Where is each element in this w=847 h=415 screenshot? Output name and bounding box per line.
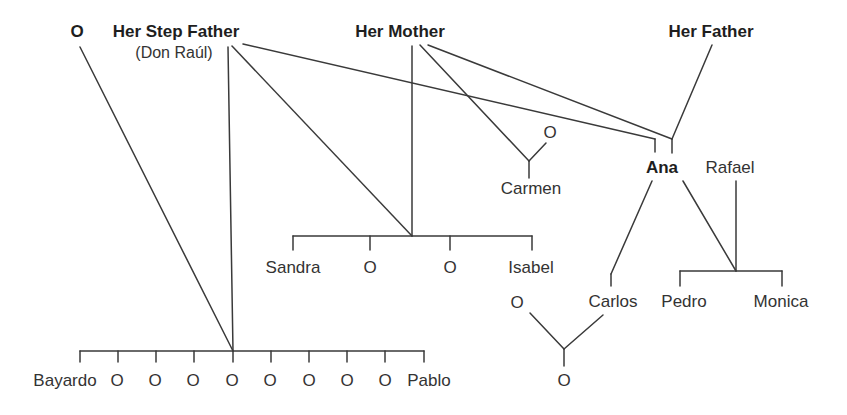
bottom-o3: O <box>186 372 199 389</box>
sandra-label: Sandra <box>266 259 321 276</box>
carlos-partner-o: O <box>510 294 523 311</box>
unknown-spouse-top: O <box>70 23 83 40</box>
bottom-o5: O <box>263 372 276 389</box>
middle-o2: O <box>443 259 456 276</box>
rafael-label: Rafael <box>705 159 754 176</box>
bottom-o2: O <box>148 372 161 389</box>
link-stepfather-to-middle-family <box>232 46 412 236</box>
step-father-name: (Don Raúl) <box>135 45 212 61</box>
carlos-label: Carlos <box>588 293 637 310</box>
bottom-o7: O <box>340 372 353 389</box>
family-tree-lines <box>0 0 847 415</box>
bottom-o6: O <box>302 372 315 389</box>
link-ana-to-carlos <box>611 181 652 274</box>
mothers-partner-o: O <box>543 124 556 141</box>
link-stepfather-to-bottom-family <box>228 47 233 351</box>
step-father-label: Her Step Father <box>113 23 240 40</box>
link-ana-to-pedro-monica <box>683 181 736 271</box>
bottom-o4: O <box>225 372 238 389</box>
bottom-o1: O <box>110 372 123 389</box>
bayardo-label: Bayardo <box>33 372 96 389</box>
pablo-label: Pablo <box>407 372 450 389</box>
carlos-child-o: O <box>557 372 570 389</box>
ana-label: Ana <box>646 159 678 176</box>
pedro-label: Pedro <box>661 293 706 310</box>
link-o-to-carmen <box>529 143 546 161</box>
link-o-to-carlos-child <box>530 313 564 349</box>
link-stepfather-to-ana <box>243 44 655 139</box>
isabel-label: Isabel <box>508 259 553 276</box>
middle-o1: O <box>363 259 376 276</box>
link-father-to-ana <box>672 45 712 139</box>
link-o-to-bottom-family <box>80 47 233 351</box>
carmen-label: Carmen <box>501 180 561 197</box>
link-carlos-to-child <box>564 315 603 349</box>
bottom-o8: O <box>378 372 391 389</box>
father-label: Her Father <box>668 23 753 40</box>
mother-label: Her Mother <box>355 23 445 40</box>
monica-label: Monica <box>754 293 809 310</box>
